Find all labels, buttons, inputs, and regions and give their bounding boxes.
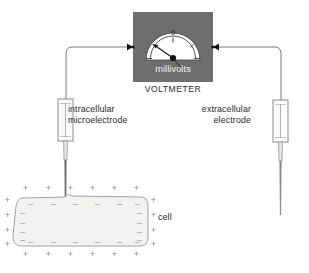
charge-inside-bottom: – xyxy=(116,238,123,247)
charge-inside-right: – xyxy=(136,209,143,218)
charge-inside-left: – xyxy=(19,209,26,218)
extracellular-electrode-label: extracellularelectrode xyxy=(155,104,251,125)
charge-inside-bottom: – xyxy=(27,238,34,247)
charge-outside-right: + xyxy=(150,196,157,205)
voltmeter-unit-label: millivolts xyxy=(133,64,213,75)
extracellular-label-line2: electrode xyxy=(214,115,251,125)
charge-inside-left: – xyxy=(19,236,26,245)
cell-label: cell xyxy=(158,212,172,223)
charge-outside-top: + xyxy=(45,184,52,193)
intracellular-electrode-label: intracellularmicroelectrode xyxy=(68,104,154,125)
charge-outside-bottom: + xyxy=(22,250,29,259)
right-electrode-tip xyxy=(280,161,282,215)
charge-outside-bottom: + xyxy=(133,250,140,259)
charge-outside-bottom: + xyxy=(111,250,118,259)
wire-to-extracellular-electrode xyxy=(215,47,281,100)
charge-inside-top: – xyxy=(27,200,34,209)
extracellular-electrode[interactable] xyxy=(273,100,288,215)
wire-to-intracellular-electrode xyxy=(66,47,131,99)
charge-outside-bottom: + xyxy=(67,250,74,259)
intracellular-label-line2: microelectrode xyxy=(68,115,128,125)
charge-outside-top: + xyxy=(111,184,118,193)
charge-inside-right: – xyxy=(136,236,143,245)
left-electrode-shank xyxy=(64,141,68,160)
extracellular-label-line1: extracellular xyxy=(202,104,251,114)
charge-outside-right: + xyxy=(150,226,157,235)
voltmeter-caption: VOLTMETER xyxy=(133,84,213,94)
charge-outside-bottom: + xyxy=(89,250,96,259)
right-electrode-shank xyxy=(279,142,283,161)
charge-outside-top: + xyxy=(133,184,140,193)
charge-inside-bottom: – xyxy=(94,238,101,247)
charge-outside-top: + xyxy=(89,184,96,193)
charge-outside-left: + xyxy=(4,240,11,249)
charge-inside-bottom: – xyxy=(72,238,79,247)
charge-outside-top: + xyxy=(22,184,29,193)
charge-inside-top: – xyxy=(50,200,57,209)
charge-outside-bottom: + xyxy=(45,250,52,259)
charge-inside-top: – xyxy=(94,200,101,209)
charge-outside-left: + xyxy=(4,226,11,235)
voltmeter-zero-label: 0 xyxy=(171,28,175,37)
charge-outside-left: + xyxy=(4,211,11,220)
intracellular-label-line1: intracellular xyxy=(68,104,115,114)
membrane-potential-diagram: 0 xyxy=(0,0,309,273)
charge-inside-top: – xyxy=(72,200,79,209)
charge-outside-top: + xyxy=(67,184,74,193)
charge-inside-bottom: – xyxy=(50,238,57,247)
charge-outside-right: + xyxy=(150,211,157,220)
charge-inside-top: – xyxy=(116,200,123,209)
charge-outside-right: + xyxy=(150,240,157,249)
charge-outside-left: + xyxy=(4,196,11,205)
